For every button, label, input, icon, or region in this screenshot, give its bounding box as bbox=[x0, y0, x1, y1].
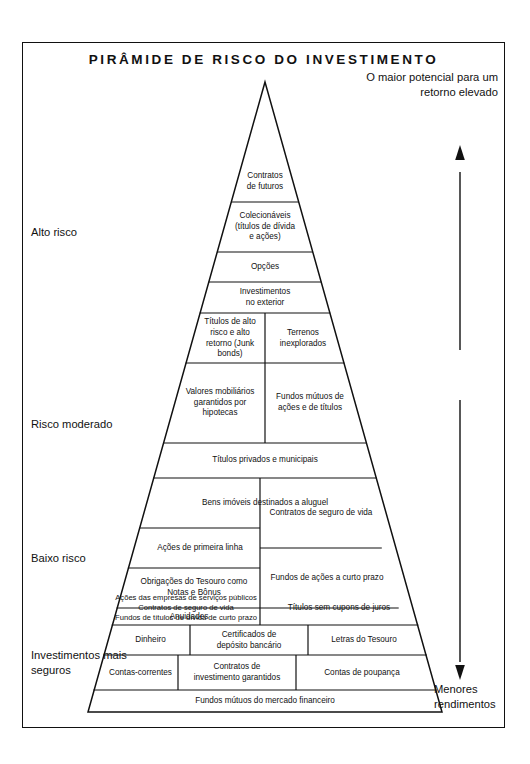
cell-line: Fundos de ações a curto prazo bbox=[271, 573, 384, 584]
cell-line: Certificados de bbox=[217, 630, 282, 641]
cell-line: Títulos sem cupons de juros bbox=[288, 603, 390, 614]
cell-line: Contratos de seguro de vida bbox=[270, 508, 373, 519]
cell-line: Valores mobiliários bbox=[178, 387, 262, 398]
cell-line: Títulos de alto bbox=[204, 317, 255, 328]
cell-line: ações e de títulos bbox=[276, 403, 344, 414]
cell-line: Fundos mútuos do mercado financeiro bbox=[195, 696, 335, 707]
cell-line: Títulos privados e municipais bbox=[212, 455, 318, 466]
pyramid-cell-certificados-deposito: Certificados de depósito bancário bbox=[191, 627, 307, 654]
cell-line: e ações) bbox=[235, 232, 295, 243]
annotation-top-right: O maior potencial para um retorno elevad… bbox=[360, 70, 498, 101]
cell-line: Dinheiro bbox=[135, 635, 166, 646]
pyramid-cell-letras-tesouro: Letras do Tesouro bbox=[310, 627, 418, 654]
annotation-line: O maior potencial bbox=[366, 71, 454, 83]
cell-line: Contratos de bbox=[194, 662, 280, 673]
cell-line: Contratos bbox=[247, 171, 283, 182]
cell-line: inexplorados bbox=[280, 339, 326, 350]
pyramid-cell-investimentos-no-exterior: Investimentos no exterior bbox=[206, 284, 324, 312]
pyramid-cell-valores-mobiliarios: Valores mobiliários garantidos por hipot… bbox=[176, 365, 264, 441]
risk-label-text: Investimentos bbox=[31, 649, 100, 661]
pyramid-cell-contas-poupanca: Contas de poupança bbox=[298, 657, 426, 689]
cell-line: depósito bancário bbox=[217, 641, 282, 652]
cell-line: garantidos por hipotecas bbox=[178, 398, 262, 420]
cell-line: risco e alto bbox=[204, 328, 255, 339]
pyramid-cell-contratos-de-futuros: Contratos de futuros bbox=[228, 163, 302, 201]
pyramid-cell-contratos-investimento-garantidos: Contratos de investimento garantidos bbox=[179, 657, 295, 689]
risk-label-investimentos-mais-seguros: Investimentos mais seguros bbox=[31, 648, 151, 678]
pyramid-diagram-page: PIRÂMIDE DE RISCO DO INVESTIMENTO bbox=[0, 0, 530, 764]
pyramid-cell-acoes-primeira-linha: Ações de primeira linha bbox=[142, 530, 258, 566]
cell-line: Investimentos bbox=[240, 287, 291, 298]
cell-line: Colecionáveis bbox=[235, 211, 295, 222]
pyramid-cell-junk-bonds: Títulos de alto risco e alto retorno (Ju… bbox=[196, 315, 264, 362]
cell-line: Obrigações do Tesouro como bbox=[141, 577, 248, 588]
cell-line: Opções bbox=[251, 262, 279, 273]
pyramid-cell-opcoes: Opções bbox=[215, 253, 315, 281]
risk-label-text: Risco moderado bbox=[31, 418, 112, 430]
cell-line: Fundos mútuos de bbox=[276, 392, 344, 403]
cell-line: retorno (Junk bbox=[204, 339, 255, 350]
risk-label-risco-moderado: Risco moderado bbox=[31, 417, 151, 432]
pyramid-cell-colecionaveis: Colecionáveis (títulos de dívida e ações… bbox=[210, 204, 320, 250]
cell-line: (títulos de dívida bbox=[235, 222, 295, 233]
cell-line: Letras do Tesouro bbox=[331, 635, 396, 646]
pyramid-cell-titulos-privados-municipais: Títulos privados e municipais bbox=[166, 445, 364, 476]
annotation-line: Menores bbox=[434, 683, 478, 695]
cell-line: Ações das empresas de serviços públicos bbox=[115, 593, 257, 603]
cell-line: Terrenos bbox=[280, 328, 326, 339]
annotation-bottom-right: Menores rendimentos bbox=[434, 682, 514, 713]
cell-line: Contratos de seguro de vida bbox=[115, 603, 257, 613]
cell-line: Fundos de títulos de dívida de curto pra… bbox=[115, 613, 257, 623]
annotation-line: rendimentos bbox=[434, 698, 496, 710]
cell-line: Ações de primeira linha bbox=[157, 543, 243, 554]
risk-label-alto-risco: Alto risco bbox=[31, 225, 141, 240]
pyramid-cell-terrenos-inexplorados: Terrenos inexplorados bbox=[266, 315, 340, 362]
pyramid-cell-contratos-seguro-vida: Contratos de seguro de vida bbox=[262, 480, 380, 546]
cell-line: investimento garantidos bbox=[194, 673, 280, 684]
cell-line: de futuros bbox=[247, 182, 283, 193]
pyramid-cell-acoes-servicos-publicos: Ações das empresas de serviços públicos … bbox=[112, 592, 260, 624]
annotation-line: elevado bbox=[459, 86, 498, 98]
cell-line: bonds) bbox=[204, 349, 255, 360]
cell-line: Contas de poupança bbox=[324, 668, 400, 679]
cell-line: no exterior bbox=[240, 298, 291, 309]
risk-label-baixo-risco: Baixo risco bbox=[31, 551, 141, 566]
pyramid-cell-fundos-mutuos-acoes-titulos: Fundos mútuos de ações e de títulos bbox=[266, 365, 354, 441]
pyramid-cell-titulos-sem-cupons: Títulos sem cupons de juros bbox=[262, 592, 416, 624]
risk-label-text: Baixo risco bbox=[31, 552, 86, 564]
risk-label-text: Alto risco bbox=[31, 226, 77, 238]
pyramid-cell-fundos-mutuos-mercado-financeiro: Fundos mútuos do mercado financeiro bbox=[94, 692, 436, 711]
